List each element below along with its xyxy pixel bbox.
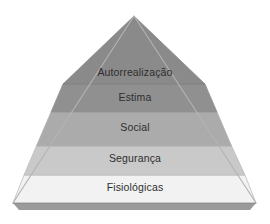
pyramid-graphic — [0, 0, 270, 224]
pyramid-base-shadow — [13, 203, 256, 210]
pyramid-tier-autorrealizacao — [63, 16, 205, 84]
maslow-pyramid-figure: Autorrealização Estima Social Segurança … — [0, 0, 270, 224]
pyramid-tier-fisiologicas — [13, 175, 256, 203]
pyramid-tier-seguranca — [24, 146, 245, 175]
pyramid-tier-social — [36, 112, 231, 146]
pyramid-tier-estima — [51, 84, 217, 112]
